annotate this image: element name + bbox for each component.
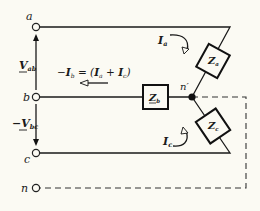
terminal-a-label: a: [26, 10, 33, 23]
impedance-zc-box: Zc: [196, 109, 230, 144]
neutral-node-label: n′: [180, 81, 189, 92]
ib-equation-label: −Ib = (Ia + Ic): [57, 66, 131, 79]
impedance-zb-box: Zb: [143, 85, 168, 109]
svg-text:Ia: Ia: [157, 34, 167, 48]
terminal-b: [32, 93, 39, 100]
terminal-n: [32, 184, 39, 191]
svg-text:Vab: Vab: [19, 59, 37, 73]
impedance-za-box: Za: [196, 44, 230, 78]
ib-arrow-head-icon: [80, 80, 88, 86]
svg-text:Ic: Ic: [162, 135, 172, 149]
svg-text:−Vbc: −Vbc: [12, 117, 38, 131]
svg-text:−Ib = (Ia + Ic): −Ib = (Ia + Ic): [57, 66, 131, 79]
vbc-label: −Vbc: [12, 117, 38, 131]
terminal-b-label: b: [23, 91, 30, 104]
ic-label: Ic: [162, 135, 172, 149]
terminal-c-label: c: [24, 153, 30, 166]
terminal-a: [32, 23, 39, 30]
ia-label: Ia: [157, 34, 167, 48]
terminal-n-label: n: [21, 182, 28, 195]
wye-load-circuit-diagram: a b c n Vab −Vbc −Ib = (Ia + Ic) Ia Ic Z…: [0, 0, 260, 211]
vbc-arrow-head-icon: [33, 139, 39, 146]
terminal-c: [32, 149, 39, 156]
ic-arrow-head-icon: [181, 127, 188, 134]
vab-label: Vab: [19, 59, 37, 73]
vab-arrow-head-icon: [33, 34, 39, 41]
neutral-node-n-prime: [188, 93, 195, 100]
